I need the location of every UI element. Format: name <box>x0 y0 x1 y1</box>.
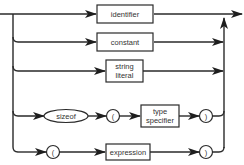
sizeof-label: sizeof <box>56 112 77 121</box>
identifier-label: identifier <box>111 10 140 19</box>
expression-label: expression <box>110 148 146 157</box>
constant-label: constant <box>111 38 140 47</box>
type-specifier-label-line1: type <box>153 107 167 116</box>
syntax-diagram: identifier constant string literal sizeo… <box>0 0 244 165</box>
left-branch-line <box>13 14 18 152</box>
alt-string-literal: string literal <box>13 60 223 82</box>
alt-constant: constant <box>13 33 223 51</box>
alt-sizeof: sizeof ( type specifier ) <box>13 105 224 127</box>
alt-identifier: identifier <box>97 5 153 23</box>
alt-paren-expression: ( expression ) <box>18 144 224 160</box>
type-specifier-label-line2: specifier <box>146 116 174 125</box>
string-literal-label-line2: literal <box>116 71 134 80</box>
string-literal-label-line1: string <box>115 62 133 71</box>
